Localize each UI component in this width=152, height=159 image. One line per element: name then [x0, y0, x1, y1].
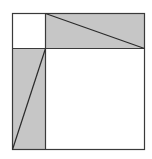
small-square-top-left — [13, 14, 46, 49]
large-square-bottom-right — [46, 49, 145, 150]
square-dissection-diagram — [0, 0, 152, 159]
